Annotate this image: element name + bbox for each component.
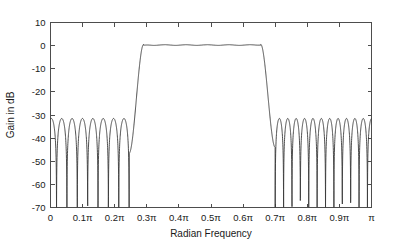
x-tick-label: π [368, 212, 375, 223]
x-tick-label: 0.9π [330, 212, 350, 223]
x-tick-label: 0.8π [297, 212, 317, 223]
x-tick-label: 0.1π [73, 212, 93, 223]
frequency-response-chart: 00.1π0.2π0.3π0.4π0.5π0.6π0.7π0.8π0.9ππ 1… [0, 0, 395, 250]
y-tick-label: 0 [40, 40, 45, 51]
x-tick-label: 0.2π [105, 212, 125, 223]
y-axis-title: Gain in dB [5, 91, 16, 138]
x-tick-label: 0.3π [137, 212, 157, 223]
y-tick-label: -30 [32, 110, 46, 121]
x-axis-title: Radian Frequency [170, 228, 252, 239]
x-tick-label: 0 [48, 212, 53, 223]
x-tick-label: 0.7π [265, 212, 285, 223]
x-tick-label: 0.5π [201, 212, 221, 223]
y-tick-label: -50 [32, 156, 46, 167]
y-tick-label: -60 [32, 179, 46, 190]
y-tick-label: -40 [32, 133, 46, 144]
y-tick-label: -20 [32, 86, 46, 97]
y-tick-label: 10 [35, 17, 46, 28]
x-tick-label: 0.6π [233, 212, 253, 223]
y-tick-label: -70 [32, 202, 46, 213]
y-tick-label: -10 [32, 63, 46, 74]
x-tick-label: 0.4π [169, 212, 189, 223]
figure-container: 00.1π0.2π0.3π0.4π0.5π0.6π0.7π0.8π0.9ππ 1… [0, 0, 395, 250]
